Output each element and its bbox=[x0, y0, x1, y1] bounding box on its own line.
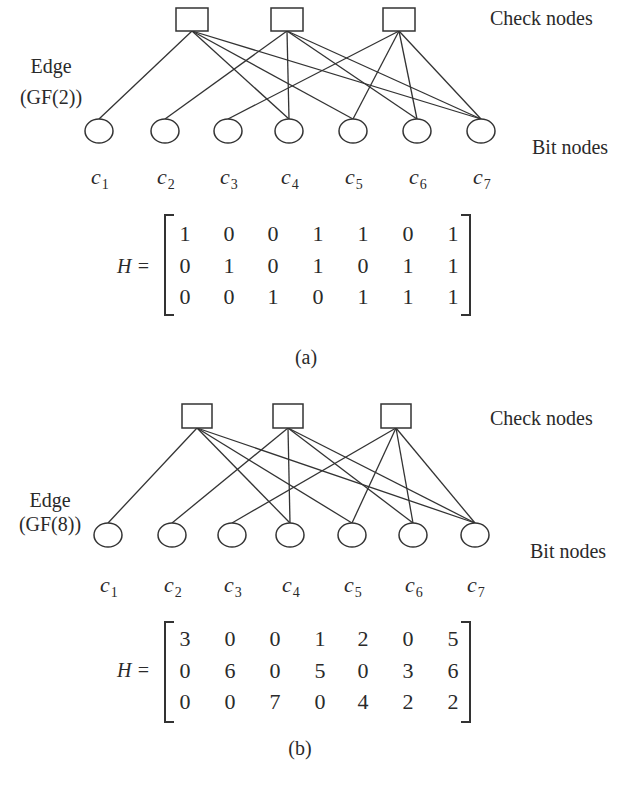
edge-check2-bit2 bbox=[172, 428, 288, 523]
matrix-cell-r1-c1: 3 bbox=[180, 626, 191, 651]
edge-check2-bit6 bbox=[288, 428, 413, 523]
bit-label-c2: c2 bbox=[157, 164, 175, 192]
edge-check2-bit6 bbox=[287, 31, 417, 119]
edge-check1-bit5 bbox=[192, 31, 353, 119]
bit-label-c7: c7 bbox=[473, 164, 491, 192]
matrix-cell-r2-c7: 1 bbox=[448, 253, 459, 278]
edge-check2-bit4 bbox=[288, 428, 290, 523]
bit-label-c5: c5 bbox=[345, 164, 363, 192]
matrix-cell-r2-c5: 0 bbox=[358, 253, 369, 278]
matrix-cell-r1-c5: 2 bbox=[358, 626, 369, 651]
matrix-cell-r2-c5: 0 bbox=[358, 658, 369, 683]
matrix-right-bracket bbox=[461, 622, 470, 722]
matrix-cell-r2-c2: 1 bbox=[224, 253, 235, 278]
check-nodes-label: Check nodes bbox=[490, 7, 593, 29]
edge-check3-bit3 bbox=[228, 31, 399, 119]
bit-node-7 bbox=[461, 523, 489, 547]
check-node-2 bbox=[271, 8, 303, 31]
bit-label-c4: c4 bbox=[281, 164, 299, 192]
matrix-cell-r1-c6: 0 bbox=[403, 221, 414, 246]
bit-label-c5: c5 bbox=[344, 572, 362, 600]
matrix-cell-r2-c4: 1 bbox=[313, 253, 324, 278]
bit-node-3 bbox=[214, 119, 242, 143]
edge-check1-bit1 bbox=[108, 428, 197, 523]
panel-b-bit-nodes bbox=[94, 523, 489, 547]
matrix-cell-r2-c3: 0 bbox=[270, 658, 281, 683]
matrix-cell-r3-c6: 2 bbox=[403, 689, 414, 714]
panel-b-caption: (b) bbox=[288, 737, 311, 760]
edge-label: Edge bbox=[29, 489, 70, 512]
matrix-cell-r2-c7: 6 bbox=[448, 658, 459, 683]
matrix-cell-r2-c4: 5 bbox=[315, 658, 326, 683]
bit-label-c6: c6 bbox=[405, 572, 423, 600]
matrix-cell-r3-c7: 1 bbox=[448, 284, 459, 309]
bit-label-c4: c4 bbox=[282, 572, 300, 600]
matrix-left-bracket bbox=[165, 215, 174, 315]
matrix-cell-r2-c2: 6 bbox=[225, 658, 236, 683]
matrix-cell-r3-c3: 7 bbox=[270, 689, 281, 714]
bit-node-7 bbox=[467, 119, 495, 143]
edge-check1-bit4 bbox=[197, 428, 290, 523]
bit-nodes-label: Bit nodes bbox=[532, 136, 608, 158]
panel-a-check-nodes bbox=[176, 8, 415, 31]
matrix-cell-r3-c2: 0 bbox=[224, 284, 235, 309]
check-node-3 bbox=[383, 8, 415, 31]
tanner-graph-figure: Check nodes Bit nodes Edge (GF(2)) c1c2c… bbox=[0, 0, 627, 788]
check-node-1 bbox=[176, 8, 208, 31]
bit-node-5 bbox=[338, 523, 366, 547]
matrix-cell-r2-c6: 1 bbox=[403, 253, 414, 278]
edge-check3-bit5 bbox=[352, 428, 396, 523]
bit-label-c7: c7 bbox=[467, 572, 485, 600]
matrix-cell-r3-c6: 1 bbox=[403, 284, 414, 309]
matrix-cell-r2-c1: 0 bbox=[180, 253, 191, 278]
matrix-cell-r1-c1: 1 bbox=[180, 221, 191, 246]
matrix-cell-r1-c3: 0 bbox=[268, 221, 279, 246]
check-nodes-label: Check nodes bbox=[490, 407, 593, 429]
matrix-cell-r1-c6: 0 bbox=[403, 626, 414, 651]
matrix-cell-r1-c5: 1 bbox=[358, 221, 369, 246]
edge-check3-bit7 bbox=[399, 31, 481, 119]
edge-check2-bit7 bbox=[287, 31, 481, 119]
panel-a-parity-check-matrix: 100110101010110010111 bbox=[165, 215, 470, 315]
matrix-cell-r2-c3: 0 bbox=[268, 253, 279, 278]
bit-nodes-label: Bit nodes bbox=[530, 540, 606, 562]
edge-check3-bit7 bbox=[396, 428, 475, 523]
bit-node-1 bbox=[94, 523, 122, 547]
edge-field-label: (GF(2)) bbox=[20, 86, 82, 109]
edge-field-label: (GF(8)) bbox=[19, 513, 81, 536]
panel-b-parity-check-matrix: 300120506050360070422 bbox=[165, 622, 470, 722]
check-node-1 bbox=[182, 404, 212, 428]
matrix-cell-r1-c4: 1 bbox=[315, 626, 326, 651]
bit-label-c3: c3 bbox=[224, 572, 242, 600]
matrix-h-text: H = bbox=[116, 659, 150, 681]
bit-node-4 bbox=[276, 523, 304, 547]
bit-node-2 bbox=[158, 523, 186, 547]
edge-check1-bit4 bbox=[192, 31, 289, 119]
panel-a-edges bbox=[99, 31, 481, 119]
check-node-3 bbox=[381, 404, 411, 428]
matrix-cell-r2-c1: 0 bbox=[180, 658, 191, 683]
matrix-cell-r3-c1: 0 bbox=[180, 689, 191, 714]
bit-node-4 bbox=[275, 119, 303, 143]
edge-check3-bit5 bbox=[353, 31, 399, 119]
matrix-cell-r1-c7: 5 bbox=[448, 626, 459, 651]
bit-label-c3: c3 bbox=[220, 164, 238, 192]
edge-check1-bit7 bbox=[192, 31, 481, 119]
matrix-cell-r3-c5: 4 bbox=[358, 689, 369, 714]
bit-node-5 bbox=[339, 119, 367, 143]
bit-label-c2: c2 bbox=[164, 572, 182, 600]
edge-label: Edge bbox=[30, 55, 71, 78]
bit-node-2 bbox=[151, 119, 179, 143]
bit-label-c1: c1 bbox=[91, 164, 109, 192]
matrix-h-text: H = bbox=[116, 255, 150, 277]
edge-check1-bit1 bbox=[99, 31, 192, 119]
matrix-left-bracket bbox=[165, 622, 174, 722]
bit-node-6 bbox=[403, 119, 431, 143]
panel-a-bit-labels: c1c2c3c4c5c6c7 bbox=[91, 164, 491, 192]
panel-b-gf8-tanner-graph: Check nodes Bit nodes Edge (GF(8)) c1c2c… bbox=[19, 404, 606, 760]
matrix-cell-r1-c2: 0 bbox=[225, 626, 236, 651]
matrix-cell-r3-c4: 0 bbox=[313, 284, 324, 309]
matrix-h-label: H = bbox=[116, 255, 150, 277]
panel-a-bit-nodes bbox=[85, 119, 495, 143]
matrix-cell-r3-c1: 0 bbox=[180, 284, 191, 309]
